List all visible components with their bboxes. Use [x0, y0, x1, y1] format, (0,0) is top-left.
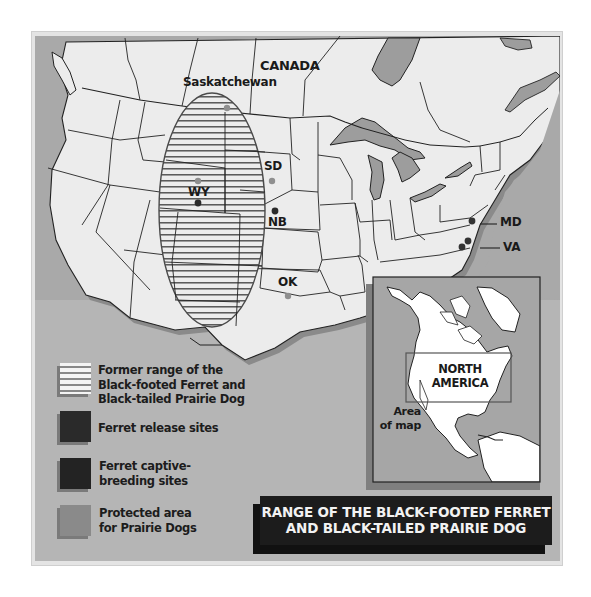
legend-swatch-protected-area — [60, 505, 91, 536]
inset-label-area-of-map: Area of map — [375, 405, 421, 433]
inset-label-north-america: NORTH AMERICA — [420, 362, 500, 390]
map-title: RANGE OF THE BLACK-FOOTED FERRET AND BLA… — [260, 496, 552, 545]
captive-breeding-marker-nb — [272, 208, 279, 215]
legend-item-captive-breeding: Ferret captive- breeding sites — [99, 459, 191, 488]
label-canada: CANADA — [260, 58, 320, 73]
release-site-marker-va-2 — [459, 244, 466, 251]
protected-area-marker-ok — [285, 293, 291, 299]
protected-area-marker-sd — [269, 178, 275, 184]
legend-item-protected-area: Protected area for Prairie Dogs — [99, 506, 197, 535]
legend-item-release-sites: Ferret release sites — [98, 421, 218, 436]
release-site-marker-md — [469, 218, 476, 225]
label-sd: SD — [264, 159, 282, 173]
release-site-marker-va-1 — [465, 238, 472, 245]
protected-area-marker-wy — [195, 178, 201, 184]
label-saskatchewan: Saskatchewan — [183, 75, 277, 89]
label-wy: WY — [188, 185, 209, 199]
label-md: MD — [500, 215, 521, 229]
captive-breeding-marker-wy — [195, 200, 202, 207]
legend-swatch-captive-breeding — [60, 458, 91, 489]
label-ok: OK — [278, 275, 297, 289]
label-va: VA — [503, 240, 520, 254]
legend-swatch-release-sites — [60, 411, 91, 442]
label-nb: NB — [268, 215, 287, 229]
protected-area-marker-saskatchewan — [224, 105, 230, 111]
legend-item-former-range: Former range of the Black-footed Ferret … — [98, 363, 245, 407]
map-figure: CANADA Saskatchewan WY SD NB OK MD VA NO… — [0, 0, 591, 597]
